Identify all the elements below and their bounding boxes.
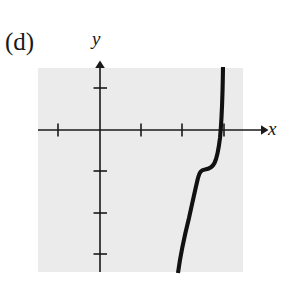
- figure-panel-d: (d) y x −4 4 8 4 −4 −8 −12: [0, 0, 293, 292]
- x-axis-arrowhead: [261, 125, 269, 135]
- y-axis-arrowhead: [95, 61, 105, 69]
- plot-area-background: [38, 68, 243, 272]
- plot-canvas: [0, 0, 293, 292]
